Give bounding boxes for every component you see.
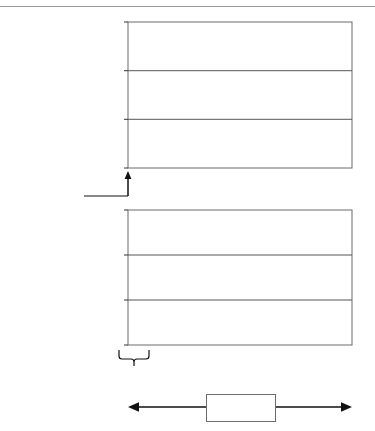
emg-chart-frame <box>124 210 352 345</box>
figure-svg <box>0 0 375 431</box>
release-marker <box>84 171 131 196</box>
figure-panel <box>0 0 375 431</box>
platform-chart-frame <box>124 22 352 168</box>
timescale-label-box <box>206 394 276 422</box>
pmt-bracket <box>119 350 149 366</box>
